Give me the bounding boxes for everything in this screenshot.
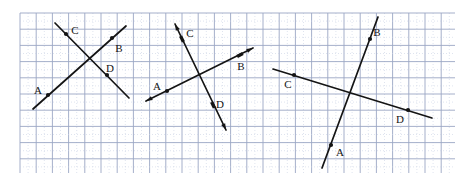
diagram-3-label-d: D	[396, 114, 404, 125]
graph-paper-grid	[20, 13, 455, 173]
diagram-1-label-d: D	[106, 63, 114, 74]
diagram-2	[146, 24, 253, 130]
diagram-3-label-c: C	[284, 79, 291, 90]
diagram-2-point-c-marker	[181, 36, 184, 42]
diagram-3-point-b-dot	[368, 37, 372, 41]
diagram-3-label-b: B	[373, 27, 380, 38]
diagram-1-point-d-dot	[105, 73, 109, 77]
diagram-2-label-d: D	[216, 99, 224, 110]
diagram-1-label-c: C	[71, 25, 78, 36]
diagram-3	[273, 17, 432, 168]
diagram-2-point-b-marker	[237, 54, 243, 57]
diagram-2-line-CD-arrowhead-start	[175, 24, 180, 31]
diagram-3-point-c-dot	[292, 73, 296, 77]
diagram-3-point-d-dot	[406, 108, 410, 112]
diagram-2-label-c: C	[186, 28, 193, 39]
diagram-1-point-b-dot	[110, 36, 114, 40]
diagram-2-label-b: B	[237, 61, 244, 72]
diagram-3-point-a-dot	[329, 143, 333, 147]
diagram-2-point-a-dot	[165, 89, 169, 93]
diagram-1-label-b: B	[115, 43, 122, 54]
diagram-1-point-a-dot	[46, 93, 50, 97]
diagram-3-label-a: A	[336, 147, 344, 158]
diagram-1-point-c-dot	[64, 32, 68, 36]
diagram-1-label-a: A	[34, 85, 42, 96]
geometry-worksheet-image: ABCDABCDABCD	[0, 0, 471, 185]
diagram-2-label-a: A	[153, 81, 161, 92]
